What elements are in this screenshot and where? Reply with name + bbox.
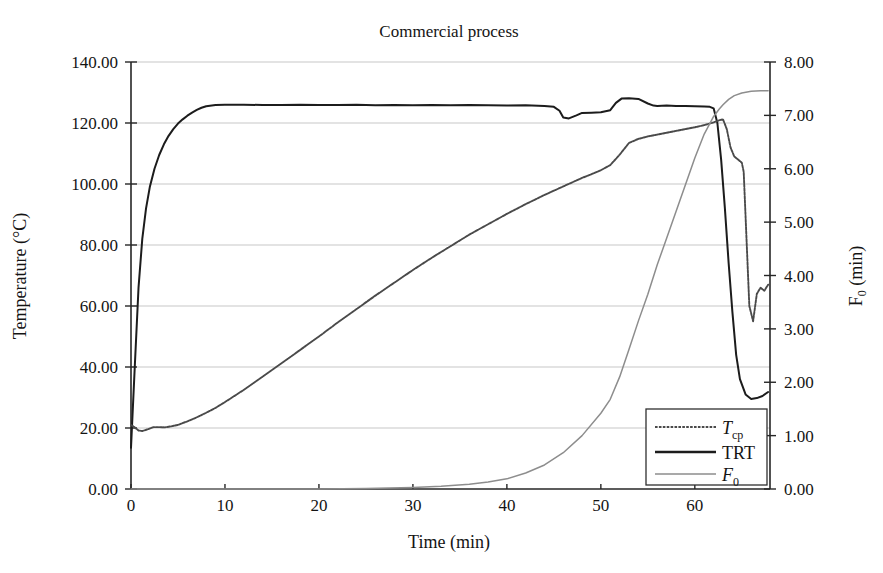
legend-label-trt[interactable]: TRT xyxy=(722,443,755,463)
right-tick-label: 0.00 xyxy=(784,480,814,499)
left-tick-label: 40.00 xyxy=(80,358,118,377)
x-tick-label: 30 xyxy=(404,496,421,515)
left-tick-label: 60.00 xyxy=(80,297,118,316)
right-tick-label: 3.00 xyxy=(784,320,814,339)
y-axis-title-right-tail: (min) xyxy=(846,246,867,291)
x-axis-title: Time (min) xyxy=(408,532,490,553)
commercial-process-chart: Commercial process 0.0020.0040.0060.0080… xyxy=(0,0,883,573)
y-axis-title-right: F0 (min) xyxy=(846,246,869,307)
chart-legend[interactable]: TcpTRTF0 xyxy=(646,409,767,489)
x-tick-label: 0 xyxy=(127,496,136,515)
right-tick-label: 6.00 xyxy=(784,160,814,179)
left-tick-label: 80.00 xyxy=(80,236,118,255)
x-tick-label: 40 xyxy=(498,496,515,515)
y-axis-title-right-main: F xyxy=(846,296,866,306)
y-axis-title-left: Temperature (°C) xyxy=(10,213,31,339)
x-tick-label: 60 xyxy=(686,496,703,515)
x-tick-label: 10 xyxy=(216,496,233,515)
legend-label-sub: 0 xyxy=(733,475,739,489)
chart-figure: Commercial process 0.0020.0040.0060.0080… xyxy=(0,0,883,573)
left-tick-label: 20.00 xyxy=(80,419,118,438)
left-tick-label: 140.00 xyxy=(71,53,118,72)
legend-label-sub: cp xyxy=(732,428,743,442)
right-tick-label: 4.00 xyxy=(784,267,814,286)
chart-title: Commercial process xyxy=(379,22,518,41)
right-tick-label: 7.00 xyxy=(784,106,814,125)
right-tick-label: 8.00 xyxy=(784,53,814,72)
left-tick-label: 120.00 xyxy=(71,114,118,133)
right-tick-label: 2.00 xyxy=(784,373,814,392)
x-tick-label: 20 xyxy=(310,496,327,515)
left-tick-label: 0.00 xyxy=(88,480,118,499)
right-tick-label: 1.00 xyxy=(784,427,814,446)
x-tick-label: 50 xyxy=(592,496,609,515)
left-tick-label: 100.00 xyxy=(71,175,118,194)
legend-label-main: TRT xyxy=(722,443,755,463)
right-tick-label: 5.00 xyxy=(784,213,814,232)
